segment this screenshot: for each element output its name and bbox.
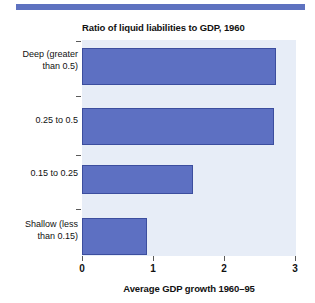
chart-title: Ratio of liquid liabilities to GDP, 1960 [82,22,296,34]
bar-shallow-less-than-0.15 [82,218,147,255]
x-axis-label-3: 3 [285,263,305,274]
category-label-0.15-to-0.25: 0.15 to 0.25 [0,168,78,180]
category-label-0.25-to-0.5-line1: 0.25 to 0.5 [0,115,78,127]
category-label-0.15-to-0.25-line1: 0.15 to 0.25 [0,168,78,180]
x-axis-label-0: 0 [72,263,92,274]
y-axis-tick-2 [76,155,81,156]
x-axis-tick-1 [153,256,154,261]
plot-area [82,40,296,256]
category-label-shallow-line2: than 0.15) [0,231,78,243]
bar-0.25-to-0.5 [82,108,274,145]
bar-deep-greater-than-0.5 [82,48,276,85]
category-label-shallow-line1: Shallow (less [0,219,78,231]
x-axis-tick-2 [224,256,225,261]
top-rule-divider [16,4,305,10]
x-axis-label-1: 1 [143,263,163,274]
category-label-deep: Deep (greater than 0.5) [0,49,78,72]
bar-0.15-to-0.25 [82,165,193,194]
y-axis-tick-0 [76,41,81,42]
category-label-0.25-to-0.5: 0.25 to 0.5 [0,115,78,127]
y-axis-tick-1 [76,96,81,97]
x-axis-tick-0 [82,256,83,261]
category-label-shallow: Shallow (less than 0.15) [0,219,78,242]
x-axis-tick-3 [295,256,296,261]
y-axis-tick-3 [76,209,81,210]
category-label-deep-line1: Deep (greater [0,49,78,61]
bar-chart-figure: Ratio of liquid liabilities to GDP, 1960… [0,0,315,303]
x-axis-label-2: 2 [214,263,234,274]
x-axis-title: Average GDP growth 1960–95 [82,283,296,294]
category-label-deep-line2: than 0.5) [0,61,78,73]
